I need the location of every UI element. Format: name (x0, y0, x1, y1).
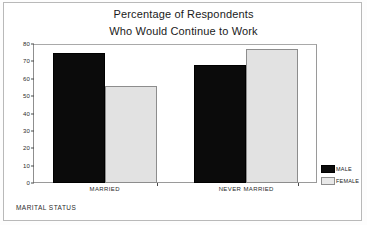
y-axis-tick-mark (31, 183, 34, 184)
legend-label-male: MALE (336, 166, 352, 172)
x-axis-category-label: MARRIED (90, 186, 120, 192)
y-axis-tick-mark (31, 96, 34, 97)
y-axis-tick-mark (31, 148, 34, 149)
bar-male-never-married (194, 65, 246, 183)
black-swatch-icon (321, 165, 335, 173)
legend-label-female: FEMALE (336, 178, 359, 184)
y-axis-tick-mark (31, 44, 34, 45)
y-axis-tick-mark (31, 113, 34, 114)
chart-title-line-2: Who Would Continue to Work (0, 25, 367, 37)
x-axis-tick-mark (298, 183, 299, 186)
x-axis-title: MARITAL STATUS (16, 204, 76, 211)
bar-female-married (105, 86, 157, 183)
chart-legend: MALE FEMALE (321, 163, 359, 187)
legend-item-female: FEMALE (321, 175, 359, 186)
gray-swatch-icon (321, 177, 335, 185)
plot-area: 01020304050607080 (34, 44, 317, 183)
bar-female-never-married (246, 49, 298, 183)
y-axis-tick-mark (31, 61, 34, 62)
chart-title-line-1: Percentage of Respondents (0, 8, 367, 20)
x-axis-tick-mark (157, 183, 158, 186)
legend-item-male: MALE (321, 163, 359, 174)
y-axis-tick-mark (31, 165, 34, 166)
y-axis-tick-mark (31, 130, 34, 131)
x-axis-category-label: NEVER MARRIED (219, 186, 274, 192)
bar-male-married (53, 53, 105, 183)
y-axis-tick-mark (31, 78, 34, 79)
chart-figure: Percentage of Respondents Who Would Cont… (0, 0, 367, 225)
